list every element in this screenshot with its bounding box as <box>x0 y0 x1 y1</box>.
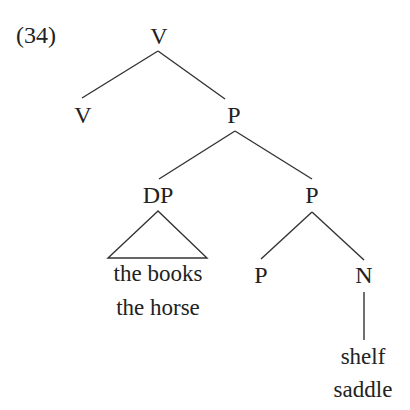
node-p-bar: P <box>305 183 318 207</box>
branch-p-to-dp <box>159 131 235 179</box>
n-terminal-line-1: shelf <box>341 345 386 369</box>
node-p: P <box>227 103 240 127</box>
node-v: V <box>74 103 91 127</box>
node-dp: DP <box>143 183 174 207</box>
n-terminal-line-2: saddle <box>334 378 393 402</box>
branch-p-to-pbar <box>235 131 312 179</box>
branch-root-to-v <box>82 51 158 98</box>
branch-pbar-to-p <box>261 212 312 259</box>
dp-terminal-line-2: the horse <box>116 296 200 320</box>
node-root-v: V <box>150 24 167 48</box>
node-p-head: P <box>254 263 267 287</box>
branch-root-to-p <box>158 51 225 99</box>
dp-triangle <box>108 211 207 258</box>
syntax-tree-figure: (34) V V P DP P the books the horse P N … <box>0 0 410 410</box>
node-n: N <box>355 263 372 287</box>
dp-terminal-line-1: the books <box>114 262 203 286</box>
example-number: (34) <box>16 23 56 47</box>
branch-pbar-to-n <box>312 212 364 260</box>
